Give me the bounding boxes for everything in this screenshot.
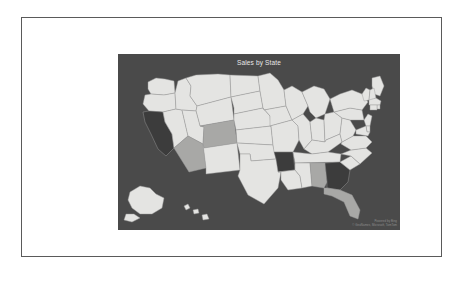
state-alabama[interactable] xyxy=(310,163,327,188)
state-florida[interactable] xyxy=(324,188,360,219)
state-rhode-island[interactable] xyxy=(377,105,380,109)
us-choropleth-map[interactable] xyxy=(118,64,400,230)
map-visual-panel[interactable]: Sales by State xyxy=(118,54,400,230)
state-alaska[interactable] xyxy=(128,186,164,214)
state-oregon[interactable] xyxy=(143,93,176,112)
state-new-mexico[interactable] xyxy=(203,143,240,174)
state-alaska-tail[interactable] xyxy=(124,214,140,222)
state-hawaii-island-2[interactable] xyxy=(193,209,199,214)
state-new-jersey[interactable] xyxy=(364,114,372,126)
state-connecticut[interactable] xyxy=(370,105,377,110)
state-indiana[interactable] xyxy=(310,118,325,142)
state-missouri[interactable] xyxy=(270,120,299,152)
state-texas[interactable] xyxy=(238,154,281,204)
state-michigan[interactable] xyxy=(302,86,330,118)
state-minnesota[interactable] xyxy=(258,73,286,110)
map-attribution: Powered by Bing © GeoNames, Microsoft, T… xyxy=(352,219,397,227)
state-hawaii-island-1[interactable] xyxy=(184,204,190,210)
slide-frame: Sales by State xyxy=(21,17,442,257)
state-hawaii-island-3[interactable] xyxy=(202,214,209,220)
map-attribution-line-2: © GeoNames, Microsoft, TomTom xyxy=(352,223,397,227)
state-tennessee[interactable] xyxy=(293,152,341,163)
state-washington[interactable] xyxy=(148,78,175,95)
